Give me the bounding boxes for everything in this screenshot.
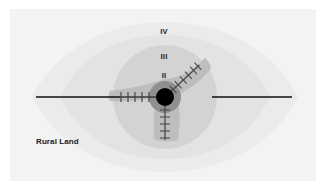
zone-ii-label: II — [162, 72, 167, 80]
land-use-zone-diagram: IV III II Rural Land — [0, 0, 326, 190]
zone-iii-label: III — [161, 53, 168, 61]
rural-land-label: Rural Land — [36, 138, 79, 146]
zone-iv-label: IV — [160, 28, 168, 36]
city-core-dot — [156, 88, 174, 106]
